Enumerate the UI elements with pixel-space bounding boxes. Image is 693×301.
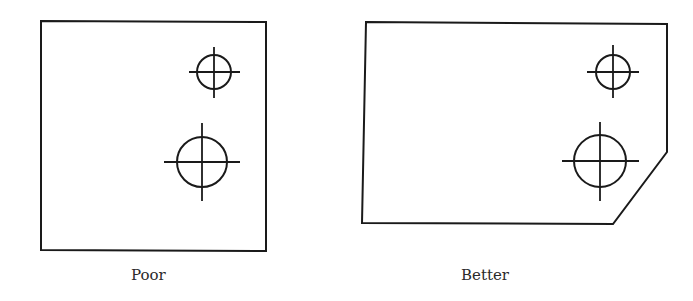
diagram-canvas — [0, 0, 693, 301]
better-large-hole-icon — [562, 122, 639, 201]
poor-panel — [41, 21, 266, 251]
poor-small-hole-icon — [189, 47, 240, 98]
poor-label: Poor — [131, 268, 166, 283]
better-small-hole-icon — [587, 45, 639, 98]
better-label: Better — [461, 268, 509, 283]
poor-large-hole-icon — [164, 123, 240, 201]
better-panel — [362, 22, 667, 224]
better-plate-outline — [362, 22, 667, 224]
poor-plate-outline — [41, 21, 266, 251]
